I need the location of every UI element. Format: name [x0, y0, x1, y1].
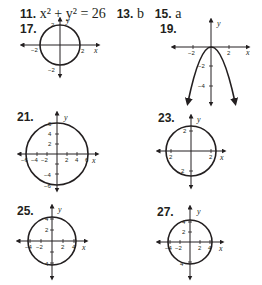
graph-21-labels: y x −6 −4 −2 2 4 6 6 4 2 −4 −6 — [21, 113, 96, 189]
tick-label: −2 — [31, 47, 39, 53]
tick-label: 2 — [182, 229, 186, 235]
tick-label: 2 — [227, 50, 231, 56]
y-axis-label: y — [196, 207, 201, 216]
graph-25 — [18, 206, 86, 278]
tick-label: 2 — [65, 157, 69, 163]
x-axis-label: x — [91, 156, 96, 165]
tick-label: 2 — [209, 154, 213, 160]
tick-label: 2 — [48, 141, 52, 147]
y-axis-label: y — [216, 19, 221, 28]
tick-label: −4 — [165, 245, 173, 251]
tick-label: 2 — [183, 128, 187, 134]
tick-label: −6 — [21, 157, 29, 163]
tick-label: −4 — [25, 244, 33, 250]
graph-23 — [158, 116, 224, 187]
x-axis-label: x — [81, 243, 86, 252]
graph-21 — [19, 113, 97, 190]
tick-label: −2 — [41, 157, 49, 163]
x-axis-label: x — [219, 153, 224, 162]
tick-label: 4 — [48, 131, 52, 137]
tick-label: −4 — [44, 172, 52, 178]
y-axis-label: y — [65, 16, 70, 25]
tick-label: −2 — [188, 50, 196, 56]
tick-label: −4 — [31, 157, 39, 163]
tick-label: 4 — [180, 261, 184, 267]
tick-label: 2 — [81, 48, 85, 54]
graph-27-labels: y x −4 −2 2 4 4 2 4 — [165, 207, 223, 267]
tick-label: −2 — [198, 63, 206, 69]
tick-label: 2 — [181, 168, 185, 174]
tick-label: −6 — [44, 183, 52, 189]
x-axis-label: x — [218, 244, 223, 253]
x-axis-label: x — [245, 48, 250, 57]
graphs-canvas: y x −2 2 2 −2 y x −2 2 −2 −4 y — [0, 0, 262, 285]
x-axis-label: x — [93, 46, 98, 55]
tick-label: −2 — [36, 244, 44, 250]
tick-label: −2 — [48, 67, 56, 73]
y-axis-label: y — [57, 205, 62, 214]
tick-label: 2 — [198, 245, 202, 251]
y-axis-label: y — [196, 115, 201, 124]
tick-label: 2 — [45, 227, 49, 233]
tick-label: 2 — [61, 244, 65, 250]
tick-label: −2 — [175, 245, 183, 251]
y-axis-label: y — [63, 113, 68, 122]
tick-label: −4 — [198, 83, 206, 89]
tick-label: 4 — [75, 157, 79, 163]
graph-19 — [173, 20, 248, 104]
graph-27 — [158, 207, 222, 278]
tick-label: 2 — [169, 154, 173, 160]
